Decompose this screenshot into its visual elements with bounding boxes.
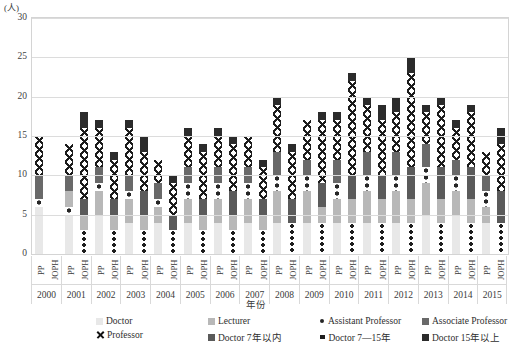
stacked-bar (318, 112, 326, 254)
bar-segment-prof (95, 128, 103, 167)
stacked-bar (378, 105, 386, 254)
bar-segment-d15up (169, 175, 177, 183)
bar-segment-asstprof (125, 191, 133, 199)
x-axis-title: 年份 (0, 297, 512, 311)
bar-segment-assocprof (422, 144, 430, 168)
bar-segment-lecturer (95, 191, 103, 215)
bar-segment-d7in (80, 199, 88, 215)
bar-segment-prof (333, 120, 341, 159)
bar-segment-d7in (199, 199, 207, 215)
legend-item-assocprof[interactable]: Associate Professor (422, 316, 507, 326)
legend-item-prof[interactable]: Professor (96, 330, 143, 340)
bar-segment-prof (154, 160, 162, 184)
x-tick-2003-JOPH: JOPH (136, 257, 150, 283)
y-axis-tick-labels: 051015202530 (0, 17, 31, 255)
bar-segment-asstprof (184, 183, 192, 199)
bar-segment-d15up (407, 57, 415, 73)
bar-segment-d15up (229, 136, 237, 144)
gridline-15 (32, 136, 508, 137)
stacked-bar (288, 144, 296, 254)
gridline-5 (32, 215, 508, 216)
bar-segment-d7in (169, 215, 177, 231)
legend-label: Associate Professor (432, 316, 507, 326)
legend-key-doctor-icon (96, 318, 103, 325)
stacked-bar (482, 152, 490, 254)
legend-item-d7in[interactable]: Doctor 7年以内 (208, 330, 282, 344)
bar-segment-prof (348, 81, 356, 175)
bar-segment-lecturer (199, 215, 207, 231)
bar-segment-doctor (244, 223, 252, 254)
bar-segment-lecturer (333, 199, 341, 223)
bar-segment-d15up (378, 105, 386, 121)
bar-segment-prof (35, 136, 43, 175)
bar-segment-prof (110, 160, 118, 199)
y-tick-30: 30 (18, 12, 28, 22)
legend-item-lecturer[interactable]: Lecturer (208, 316, 250, 326)
bar-segment-d15up (333, 112, 341, 120)
x-tick-2008-PP: PP (270, 257, 284, 283)
legend-label: Doctor (106, 316, 132, 326)
legend-item-d15up[interactable]: Doctor 15年以上 (422, 330, 500, 344)
bar-segment-lecturer (65, 191, 73, 207)
gridline-30 (32, 18, 508, 19)
stacked-bar (125, 120, 133, 254)
legend-label: Doctor 7年以内 (218, 330, 282, 344)
x-tick-2006-PP: PP (211, 257, 225, 283)
bar-segment-d715 (437, 223, 445, 254)
x-tick-2008-JOPH: JOPH (284, 257, 298, 283)
bar-segment-d715 (199, 230, 207, 254)
legend-item-doctor[interactable]: Doctor (96, 316, 132, 326)
legend-item-asstprof[interactable]: Assistant Professor (318, 316, 401, 326)
stacked-bar (452, 120, 460, 254)
bar-segment-d15up (259, 160, 267, 168)
bar-segment-lecturer (184, 199, 192, 223)
bar-segment-d7in (140, 191, 148, 215)
legend-key-d7in-icon (208, 334, 215, 341)
gridline-10 (32, 175, 508, 176)
bar-segment-assocprof (125, 175, 133, 191)
bar-segment-lecturer (80, 215, 88, 231)
bar-segment-doctor (422, 215, 430, 254)
stacked-bar (154, 160, 162, 254)
y-tick-20: 20 (18, 91, 28, 101)
bar-segment-prof (169, 183, 177, 214)
bar-segment-d7in (288, 199, 296, 223)
bar-segment-prof (407, 73, 415, 167)
bar-segment-asstprof (95, 183, 103, 191)
stacked-bar (467, 105, 475, 254)
bar-segment-d15up (214, 128, 222, 136)
bar-segment-asstprof (65, 207, 73, 215)
x-tick-2001-JOPH: JOPH (76, 257, 90, 283)
x-tick-2011-PP: PP (359, 257, 373, 283)
legend-key-asstprof-icon (320, 319, 324, 323)
stacked-bar (140, 136, 148, 254)
bar-segment-prof (363, 105, 371, 152)
bar-segment-d15up (199, 144, 207, 152)
bar-segment-prof (482, 152, 490, 176)
y-tick-0: 0 (22, 248, 27, 258)
stacked-bar (229, 136, 237, 254)
bar-segment-lecturer (214, 199, 222, 223)
bar-segment-assocprof (154, 183, 162, 199)
bar-segment-doctor (65, 215, 73, 254)
bar-segment-lecturer (467, 199, 475, 223)
plot-area (31, 17, 509, 255)
x-tick-2005-PP: PP (181, 257, 195, 283)
bar-segment-doctor (452, 215, 460, 254)
bar-segment-assocprof (273, 152, 281, 176)
bar-segment-d15up (392, 97, 400, 113)
bar-segment-lecturer (363, 191, 371, 222)
bar-segment-lecturer (229, 215, 237, 231)
bar-segment-d7in (497, 191, 505, 222)
bar-segment-doctor (363, 223, 371, 254)
bar-segment-d7in (318, 183, 326, 207)
bar-segment-prof (318, 120, 326, 183)
y-tick-25: 25 (18, 51, 28, 61)
bar-segment-prof (378, 120, 386, 175)
bar-segment-d7in (259, 199, 267, 215)
chart-legend: DoctorLecturerAssistant ProfessorAssocia… (96, 316, 512, 346)
legend-item-d715[interactable]: Doctor 7—15年 (318, 330, 391, 344)
y-tick-5: 5 (22, 209, 27, 219)
bar-segment-prof (140, 152, 148, 191)
bar-segment-prof (452, 128, 460, 159)
